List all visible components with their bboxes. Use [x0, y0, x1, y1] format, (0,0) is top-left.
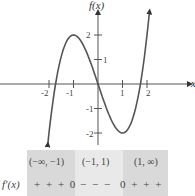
x-axis-label: x	[190, 77, 195, 89]
x-tick-label: -2	[41, 88, 49, 98]
function-graph: x f(x) -2 -1 1 2 2 1 -1 -2	[0, 0, 195, 150]
y-tick-label: 2	[86, 30, 91, 40]
y-tick-label: 1	[103, 55, 108, 65]
derivative-row-label: f′(x)	[2, 178, 20, 190]
sign-table: (−∞, −1) (−1, 1) (1, ∞) f′(x) + + + 0 − …	[0, 150, 195, 196]
sign-values: − − −	[80, 178, 112, 190]
x-tick-label: -1	[66, 88, 74, 98]
x-tick-label: 2	[146, 88, 151, 98]
sign-values: + + + 0	[34, 178, 77, 190]
function-curve	[48, 12, 150, 145]
interval-header: (−1, 1)	[82, 156, 109, 167]
y-tick-label: -1	[86, 104, 94, 114]
y-axis-label: f(x)	[89, 0, 105, 12]
interval-header: (1, ∞)	[134, 156, 158, 167]
x-tick-label: 1	[120, 88, 125, 98]
sign-values: 0 + + +	[120, 178, 163, 190]
y-tick-label: -2	[86, 129, 94, 139]
interval-header: (−∞, −1)	[29, 156, 64, 167]
